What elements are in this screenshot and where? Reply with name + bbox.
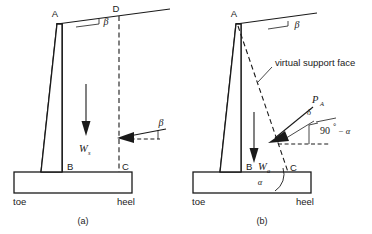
virtual-support-face-label: virtual support face	[275, 57, 355, 68]
panel-caption-b: (b)	[257, 216, 268, 226]
weight-subscript-a: s	[88, 149, 91, 156]
heel-label-b: heel	[296, 196, 314, 207]
base-slab-a	[14, 172, 132, 193]
heel-label-a: heel	[117, 196, 135, 207]
base-slab-b	[193, 172, 311, 193]
angle-label-ninety-b: 90	[320, 125, 330, 136]
wall-stem-a-overlay	[41, 24, 62, 172]
angle-label-beta-force-a: β	[158, 117, 164, 128]
callout-leader-b	[258, 67, 272, 82]
thrust-arrow-head-b	[268, 131, 289, 143]
angle-label-minus-alpha-b: − α	[338, 126, 351, 136]
beta-baseline-a	[76, 24, 99, 27]
angle-label-beta-top-b: β	[294, 19, 300, 30]
wall-stem-b-overlay	[220, 24, 241, 172]
beta-baseline-b	[268, 26, 288, 29]
pressure-arrow-head-a	[117, 132, 134, 143]
point-label-C-a: C	[122, 161, 129, 172]
toe-label-b: toe	[192, 196, 205, 207]
panel-b: A B C β α δ 90 ° − α W a P A virtual sup…	[192, 8, 355, 226]
thrust-symbol-b: P	[311, 94, 319, 105]
point-label-B-b: B	[246, 161, 252, 172]
panel-a: A D B C β β W s toe heel (a)	[13, 3, 170, 226]
point-label-C-b: C	[290, 162, 297, 173]
angle-label-alpha-b: α	[258, 177, 263, 187]
thrust-subscript-b: A	[319, 100, 324, 107]
angle-label-degree-b: °	[333, 123, 336, 132]
angle-label-beta-top-a: β	[103, 16, 109, 27]
virtual-support-face-line-b	[238, 26, 288, 172]
point-label-D-a: D	[113, 3, 120, 14]
toe-label-a: toe	[13, 196, 26, 207]
panel-caption-a: (a)	[78, 216, 89, 226]
backfill-surface-line-b	[236, 13, 317, 24]
point-label-B-a: B	[67, 161, 73, 172]
point-label-A-a: A	[52, 8, 59, 19]
weight-subscript-b: a	[267, 167, 270, 174]
weight-arrow-head-a	[82, 121, 91, 136]
point-label-A-b: A	[231, 8, 238, 19]
angle-overbar-b	[316, 118, 336, 122]
retaining-wall-figure: A D B C β β W s toe heel (a)	[0, 0, 372, 234]
